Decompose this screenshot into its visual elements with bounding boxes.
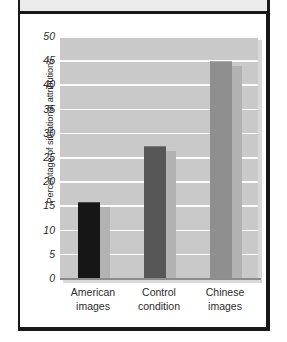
bar-group[interactable] <box>210 61 242 278</box>
bar-shadow <box>100 207 110 278</box>
x-axis-category-label: Chineseimages <box>185 286 265 313</box>
bar[interactable] <box>78 202 100 278</box>
x-axis-category-line: images <box>185 300 265 314</box>
plot-area: 05101520253035404550 <box>60 36 258 278</box>
y-axis-tick-label: 30 <box>43 127 55 138</box>
y-axis-tick-label: 15 <box>43 200 55 211</box>
figure-top-band <box>18 0 270 11</box>
y-axis-tick-label: 45 <box>43 55 55 66</box>
bar-chart: Percentage of situational attributions 0… <box>20 14 266 327</box>
y-axis-tick-label: 5 <box>49 248 55 258</box>
gridline <box>60 36 258 38</box>
y-axis-tick-label: 40 <box>43 79 55 90</box>
figure-frame: Percentage of situational attributions 0… <box>18 11 270 331</box>
y-axis-tick-label: 20 <box>43 176 55 187</box>
y-axis-tick-label: 50 <box>43 31 55 42</box>
bar[interactable] <box>210 61 232 278</box>
bar-group[interactable] <box>144 146 176 278</box>
y-axis-tick-label: 35 <box>43 103 55 114</box>
y-axis-tick-label: 10 <box>43 224 55 235</box>
x-axis-category-line: Chinese <box>185 286 265 300</box>
bar[interactable] <box>144 146 166 278</box>
bar-group[interactable] <box>78 202 110 278</box>
bar-shadow <box>232 66 242 278</box>
x-axis-line <box>60 278 261 280</box>
y-axis-tick-label: 0 <box>49 273 55 284</box>
bar-shadow <box>166 151 176 278</box>
y-axis-tick-label: 25 <box>43 152 55 163</box>
